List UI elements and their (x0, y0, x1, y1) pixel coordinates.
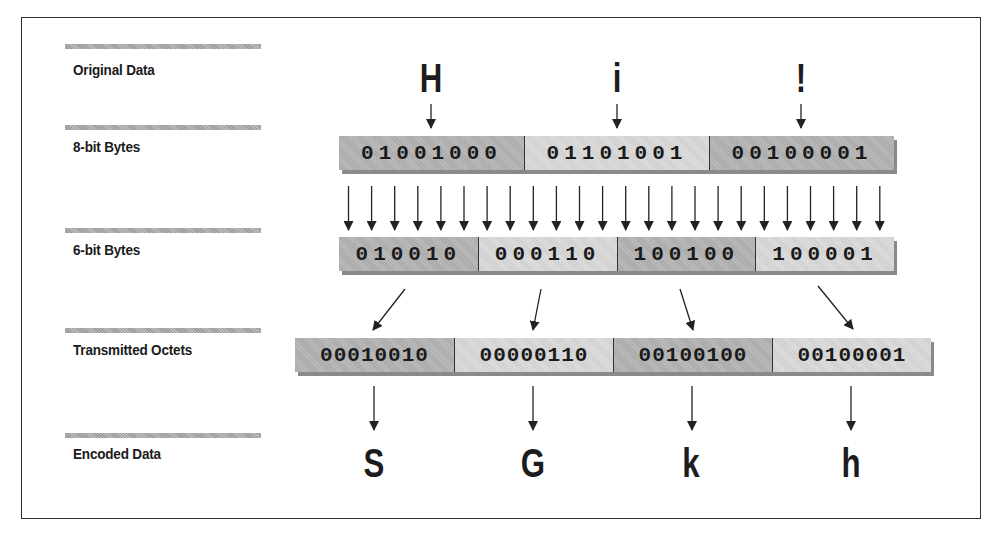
arrows-layer (0, 0, 1001, 535)
sextet-to-octet-arrows (373, 286, 853, 330)
char-to-byte-arrows (431, 104, 801, 128)
bit-arrows (349, 186, 880, 230)
octet-to-char-arrows (374, 386, 851, 430)
